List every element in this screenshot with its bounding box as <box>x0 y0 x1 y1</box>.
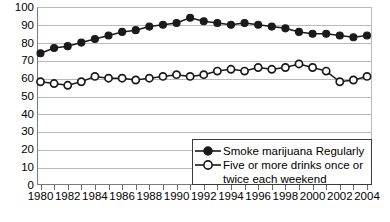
data-point <box>241 67 248 74</box>
data-point <box>37 78 44 85</box>
data-point <box>350 34 357 41</box>
x-tick-label: 1982 <box>55 190 81 202</box>
data-point <box>132 27 139 34</box>
data-point <box>159 21 166 28</box>
data-point <box>255 21 262 28</box>
data-point <box>187 14 194 21</box>
data-point <box>323 67 330 74</box>
data-point <box>119 28 126 35</box>
x-tick-label: 1984 <box>82 190 108 202</box>
data-point <box>173 20 180 27</box>
data-point <box>64 82 71 89</box>
data-point <box>241 20 248 27</box>
x-tick-label: 1994 <box>218 190 244 202</box>
data-point <box>200 18 207 25</box>
x-axis-labels: 1980198219841986198819901992199419961998… <box>0 190 390 206</box>
data-point <box>119 75 126 82</box>
x-tick-label: 2000 <box>300 190 326 202</box>
data-point <box>227 66 234 73</box>
x-tick-label: 1990 <box>164 190 190 202</box>
data-point <box>336 32 343 39</box>
data-point <box>227 21 234 28</box>
data-point <box>78 39 85 46</box>
data-point <box>214 20 221 27</box>
data-point <box>295 28 302 35</box>
data-point <box>323 30 330 37</box>
x-tick-label: 2002 <box>327 190 353 202</box>
chart-container: 100 90 80 70 60 50 40 30 20 10 0 1980198… <box>0 0 390 222</box>
data-point <box>309 30 316 37</box>
filled-circle-marker-icon <box>193 144 223 158</box>
x-tick-label: 1996 <box>245 190 271 202</box>
data-point <box>336 78 343 85</box>
data-point <box>146 23 153 30</box>
data-point <box>282 25 289 32</box>
data-point <box>37 50 44 57</box>
data-point <box>105 32 112 39</box>
data-point <box>363 73 370 80</box>
x-tick-label: 1992 <box>191 190 217 202</box>
legend-entry-drinks: Five or more drinks once or <box>193 158 373 172</box>
data-point <box>350 76 357 83</box>
data-point <box>295 60 302 67</box>
data-point <box>78 78 85 85</box>
data-series-layer <box>0 0 390 222</box>
data-point <box>64 43 71 50</box>
legend-label-continued: twice each weekend <box>223 173 327 185</box>
x-tick-label: 1986 <box>109 190 135 202</box>
chart-legend: Smoke marijuana Regularly Five or more d… <box>192 139 372 185</box>
legend-label: Five or more drinks once or <box>223 159 363 171</box>
data-point <box>51 80 58 87</box>
data-point <box>200 71 207 78</box>
x-tick-label: 1988 <box>137 190 163 202</box>
legend-entry-marijuana: Smoke marijuana Regularly <box>193 144 373 158</box>
data-point <box>146 75 153 82</box>
x-tick-label: 1998 <box>273 190 299 202</box>
data-point <box>214 67 221 74</box>
data-point <box>91 36 98 43</box>
series-drinks <box>37 60 371 89</box>
data-point <box>282 64 289 71</box>
open-circle-marker-icon <box>193 158 223 172</box>
data-point <box>268 66 275 73</box>
x-tick-label: 1980 <box>28 190 54 202</box>
data-point <box>255 64 262 71</box>
data-point <box>364 32 371 39</box>
data-point <box>105 75 112 82</box>
data-point <box>91 73 98 80</box>
data-point <box>268 23 275 30</box>
data-point <box>159 73 166 80</box>
legend-label: Smoke marijuana Regularly <box>223 145 364 157</box>
x-tick-label: 2004 <box>354 190 380 202</box>
series-marijuana <box>37 14 371 57</box>
data-point <box>309 64 316 71</box>
data-point <box>51 44 58 51</box>
data-point <box>132 76 139 83</box>
data-point <box>173 71 180 78</box>
data-point <box>187 73 194 80</box>
